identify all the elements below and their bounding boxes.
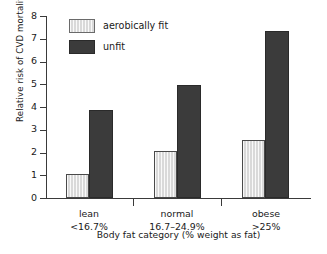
- x-axis-title: Body fat category (% weight as fat): [46, 229, 311, 240]
- legend-item-aerobically-fit: aerobically fit: [69, 17, 168, 34]
- y-axis-tick-label: 4: [31, 101, 37, 113]
- bar-normal-aerobically-fit: [154, 151, 177, 198]
- y-axis-tick: 2: [40, 153, 46, 154]
- x-axis-line: [46, 198, 311, 199]
- y-axis-tick-label: 6: [31, 55, 37, 67]
- y-axis-tick-label: 5: [31, 78, 37, 90]
- legend-item-unfit: unfit: [69, 38, 168, 55]
- y-axis-tick: 4: [40, 107, 46, 108]
- y-axis-tick-label: 0: [31, 192, 37, 204]
- y-axis-tick: 3: [40, 130, 46, 131]
- category-name: obese: [216, 208, 316, 221]
- y-axis-tick-label: 3: [31, 123, 37, 135]
- y-axis-tick: 7: [40, 39, 46, 40]
- legend-swatch-icon: [69, 40, 95, 54]
- bar-lean-aerobically-fit: [66, 174, 89, 198]
- y-axis-tick: 6: [40, 62, 46, 63]
- bar-chart-figure: Relative risk of CVD mortality 8 7 6 5 4…: [0, 0, 327, 254]
- y-axis-title: Relative risk of CVD mortality: [15, 0, 25, 137]
- bar-obese-unfit: [265, 31, 289, 198]
- category-name: normal: [127, 208, 227, 221]
- y-axis-tick-label: 2: [31, 146, 37, 158]
- bar-obese-aerobically-fit: [242, 140, 265, 198]
- bar-lean-unfit: [89, 110, 113, 198]
- chart-legend: aerobically fit unfit: [69, 17, 168, 59]
- y-axis-tick-label: 1: [31, 169, 37, 181]
- legend-swatch-icon: [69, 19, 95, 33]
- x-axis-tick: [133, 199, 134, 206]
- legend-label: unfit: [103, 41, 125, 52]
- y-axis-tick: 5: [40, 84, 46, 85]
- y-axis-tick: 1: [40, 175, 46, 176]
- x-axis-tick: [221, 199, 222, 206]
- legend-label: aerobically fit: [103, 20, 168, 31]
- y-axis-tick: 8: [40, 16, 46, 17]
- y-axis-tick-label: 7: [31, 32, 37, 44]
- bar-normal-unfit: [177, 85, 201, 198]
- category-name: lean: [39, 208, 139, 221]
- y-axis-tick-label: 8: [31, 10, 37, 22]
- y-axis-line: [46, 16, 47, 199]
- y-axis-tick: 0: [40, 198, 46, 199]
